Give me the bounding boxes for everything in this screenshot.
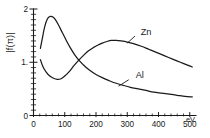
x-tick-label: 100: [58, 120, 72, 129]
x-tick-label: 0: [31, 120, 36, 129]
x-axis-tick-labels: 0100200300400500: [31, 120, 197, 129]
series-label-zn: Zn: [141, 27, 152, 37]
chart-figure: |f(π)| 01.2 0100200300400500 eV. Zn Al: [0, 0, 210, 138]
x-axis-ticks: [34, 112, 190, 117]
curve-zn: [40, 40, 192, 79]
x-tick-label: 400: [152, 120, 166, 129]
y-axis-ticks: [30, 9, 38, 116]
x-tick-label: 300: [120, 120, 134, 129]
x-axis-unit-label: eV.: [186, 115, 196, 124]
x-tick-label: 200: [89, 120, 103, 129]
series-label-al: Al: [136, 70, 144, 80]
y-axis-tick-labels: 01.2: [21, 5, 28, 121]
y-tick-label: 2: [23, 5, 28, 14]
y-tick-label: 0: [23, 112, 28, 121]
plot-area: 01.2 0100200300400500 eV. Zn Al: [0, 0, 210, 138]
curve-al: [40, 16, 192, 96]
y-tick-label: 1.: [21, 58, 28, 67]
zn-label-leader-line: [127, 36, 135, 43]
